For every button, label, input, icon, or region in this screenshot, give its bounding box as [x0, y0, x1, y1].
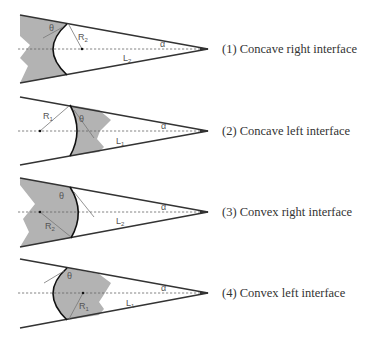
- curvature-center-point: [82, 292, 85, 295]
- length-label: L1: [126, 298, 135, 309]
- half-angle-label: α: [160, 39, 165, 49]
- contact-angle-label: θ: [59, 191, 64, 201]
- half-angle-label: α: [161, 121, 166, 131]
- contact-angle-label: θ: [67, 271, 72, 281]
- half-angle-label: α: [161, 202, 166, 212]
- panel-caption: (4) Convex left interface: [222, 286, 346, 300]
- panel-4: θ R1 L1 α (4) Convex left interface: [18, 259, 346, 328]
- diagram-canvas: θ R2 L2 α (1) Concave right interface θ …: [0, 0, 381, 345]
- length-label: L2: [116, 216, 125, 227]
- wedge-wall-bottom: [20, 131, 208, 165]
- wedge-wall-bottom: [20, 293, 208, 328]
- panel-2: θ R1 L1 α (2) Concave left interface: [18, 97, 351, 165]
- wedge-meniscus-diagram: θ R2 L2 α (1) Concave right interface θ …: [0, 0, 381, 345]
- length-label: L2: [123, 53, 132, 64]
- wedge-apex-markers: [200, 48, 209, 295]
- panel-1: θ R2 L2 α (1) Concave right interface: [18, 15, 357, 83]
- panel-3: θ R2 L2 α (3) Convex right interface: [18, 178, 353, 247]
- radius-label: R2: [78, 32, 89, 43]
- panel-caption: (3) Convex right interface: [222, 205, 353, 219]
- contact-angle-label: θ: [79, 114, 84, 124]
- fluid-region: [20, 178, 78, 247]
- panel-caption: (1) Concave right interface: [222, 42, 357, 56]
- wedge-wall-top: [20, 259, 208, 293]
- radius-label: R1: [43, 111, 54, 122]
- half-angle-label: α: [161, 283, 166, 293]
- curvature-center-point: [81, 48, 84, 51]
- panel-caption: (2) Concave left interface: [222, 124, 351, 138]
- curvature-center-point: [39, 211, 42, 214]
- length-label: L1: [116, 136, 125, 147]
- curvature-center-point: [39, 130, 42, 133]
- contact-angle-label: θ: [49, 23, 54, 33]
